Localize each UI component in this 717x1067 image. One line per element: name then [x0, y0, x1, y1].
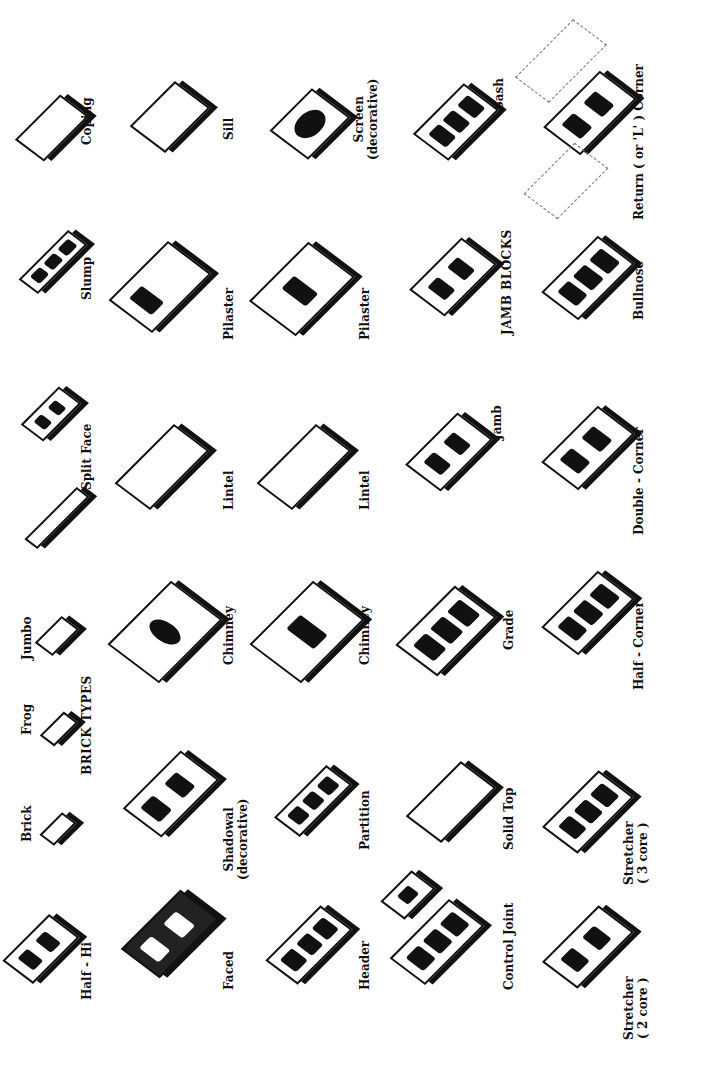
brick-illustration [39, 812, 76, 846]
lintel-2-block-illustration [257, 424, 352, 510]
label-stretcher-3-core: Stretcher( 3 core ) [622, 821, 650, 885]
jumbo-brick-illustration [35, 616, 80, 656]
label-partition: Partition [358, 790, 372, 850]
shadowal-block-illustration [123, 750, 220, 837]
label-sill: Sill [222, 118, 236, 140]
label-slump: Slump [80, 257, 94, 300]
label-double-corner: Double - Corner [632, 427, 646, 535]
label-control-joint: Control Joint [502, 903, 516, 990]
heading-brick-types: BRICK TYPES [80, 675, 94, 775]
coping-block-illustration [15, 94, 89, 161]
label-solid-top: Solid Top [502, 788, 516, 850]
jamb-block-illustration [405, 412, 493, 491]
label-frog: Frog [20, 704, 34, 735]
label-pilaster-2: Pilaster [358, 288, 372, 340]
half-hi-block-illustration [2, 914, 79, 984]
label-split-face: Split Face [80, 424, 94, 490]
label-sash: Sash [492, 78, 506, 110]
stretcher-3-core-illustration [542, 770, 634, 853]
label-chimney-2: Chimney [358, 606, 372, 665]
partition-block-illustration [274, 765, 352, 837]
chimney-block-illustration [107, 581, 222, 684]
frog-brick-illustration [40, 712, 79, 747]
label-coping: Coping [80, 97, 94, 145]
lintel-block-illustration [115, 424, 210, 510]
label-header: Header [358, 941, 372, 990]
label-pilaster: Pilaster [222, 288, 236, 340]
control-joint-half-block-illustration [380, 870, 435, 919]
sash-block-illustration [413, 83, 499, 161]
grade-block-illustration [395, 586, 496, 677]
faced-block-illustration [121, 890, 219, 979]
pilaster-block-illustration [109, 241, 212, 333]
label-screen: Screen(decorative) [352, 79, 380, 161]
label-bullnose: Bullnose [632, 261, 646, 320]
header-block-illustration [265, 905, 352, 984]
label-faced: Faced [222, 951, 236, 990]
stretcher-2-core-illustration [542, 905, 634, 988]
return-corner-dashed-outline-2 [524, 143, 609, 219]
split-face-brick-illustration [24, 487, 89, 549]
jamb-pilaster-block-illustration [409, 237, 497, 316]
label-brick: Brick [20, 805, 34, 842]
label-jamb: Jamb [490, 405, 504, 440]
split-face-block-illustration [21, 386, 82, 441]
label-return-corner: Return ( or 'L' ) Corner [632, 64, 646, 220]
double-corner-block-illustration [541, 406, 635, 491]
bullnose-block-illustration [541, 236, 635, 321]
sill-block-illustration [130, 81, 211, 153]
label-jumbo: Jumbo [20, 617, 34, 661]
chimney-2-block-illustration [249, 581, 364, 684]
heading-jamb-blocks: JAMB BLOCKS [500, 229, 514, 335]
label-lintel: Lintel [222, 471, 236, 510]
label-half-hi: Half - Hi [80, 942, 94, 1000]
label-half-corner: Half - Corner [632, 601, 646, 690]
label-chimney: Chimney [222, 606, 236, 665]
solid-top-block-illustration [406, 761, 497, 843]
half-corner-block-illustration [541, 571, 635, 656]
label-stretcher-2-core: Stretcher( 2 core ) [622, 976, 650, 1040]
label-grade: Grade [502, 610, 516, 650]
slump-block-illustration [19, 230, 88, 294]
screen-block-illustration [269, 88, 350, 160]
label-shadowal: Shadowal(decorative) [222, 799, 250, 881]
label-lintel-2: Lintel [358, 471, 372, 510]
pilaster-2-block-illustration [249, 242, 355, 337]
